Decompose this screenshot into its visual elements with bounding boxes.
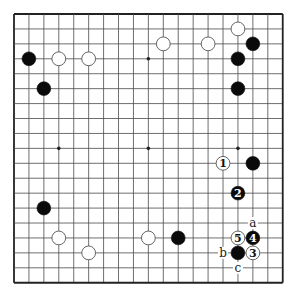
white-stone [82, 52, 96, 66]
white-stone-disc [201, 37, 215, 51]
white-stone [52, 52, 66, 66]
white-stone-disc [82, 246, 96, 260]
white-stone [141, 231, 155, 245]
black-stone: 2 [231, 186, 245, 200]
black-stone [246, 156, 260, 170]
white-stone-disc [52, 52, 66, 66]
point-label-a: a [249, 216, 256, 230]
black-stone [22, 52, 36, 66]
go-board: abc 12543 [0, 0, 293, 302]
black-stone-disc [231, 246, 245, 260]
black-stone-disc [246, 156, 260, 170]
move-number: 4 [249, 232, 257, 245]
white-stone-disc [52, 231, 66, 245]
black-stone-disc [22, 52, 36, 66]
star-point [236, 147, 240, 151]
black-stone-disc [37, 201, 51, 215]
stones: 12543 [22, 22, 260, 260]
move-number: 3 [249, 247, 257, 260]
white-stone [231, 22, 245, 36]
white-stone-disc [141, 231, 155, 245]
white-stone [82, 246, 96, 260]
star-point [147, 147, 151, 151]
star-point [57, 147, 61, 151]
black-stone [231, 246, 245, 260]
white-stone [201, 37, 215, 51]
white-stone-disc [231, 22, 245, 36]
white-stone [156, 37, 170, 51]
point-label-c: c [235, 261, 242, 275]
move-number: 1 [219, 157, 227, 170]
black-stone-disc [231, 82, 245, 96]
black-stone [246, 37, 260, 51]
black-stone: 4 [246, 231, 260, 245]
black-stone-disc [171, 231, 185, 245]
black-stone-disc [246, 37, 260, 51]
black-stone [37, 82, 51, 96]
black-stone [171, 231, 185, 245]
white-stone [52, 231, 66, 245]
white-stone: 1 [216, 156, 230, 170]
black-stone [231, 82, 245, 96]
white-stone: 5 [231, 231, 245, 245]
white-stone-disc [156, 37, 170, 51]
move-number: 2 [234, 187, 242, 200]
black-stone [231, 52, 245, 66]
black-stone [37, 201, 51, 215]
black-stone-disc [37, 82, 51, 96]
point-label-b: b [219, 246, 227, 260]
star-point [147, 57, 151, 61]
white-stone-disc [82, 52, 96, 66]
move-number: 5 [234, 232, 242, 245]
black-stone-disc [231, 52, 245, 66]
white-stone: 3 [246, 246, 260, 260]
